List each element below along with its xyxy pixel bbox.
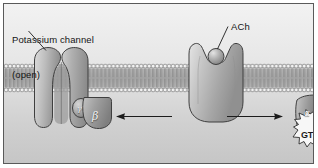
- figure-frame: Potassium channel (open) ACh γ β α GTP: [3, 3, 314, 164]
- acetylcholine-molecule: [208, 49, 224, 65]
- beta-subunit-label: β: [92, 110, 98, 123]
- potassium-channel-label-line2: (open): [12, 69, 94, 81]
- arrow-left: [116, 113, 172, 119]
- figure-root: Potassium channel (open) ACh γ β α GTP: [0, 0, 318, 168]
- ach-label: ACh: [231, 21, 250, 33]
- leader-line-ach: [218, 27, 229, 50]
- potassium-channel-label: Potassium channel (open): [12, 11, 94, 103]
- gtp-label: GTP: [301, 130, 314, 140]
- alpha-subunit-label: α: [304, 108, 310, 118]
- potassium-channel-label-line1: Potassium channel: [12, 34, 94, 46]
- gamma-subunit-label: γ: [77, 104, 82, 113]
